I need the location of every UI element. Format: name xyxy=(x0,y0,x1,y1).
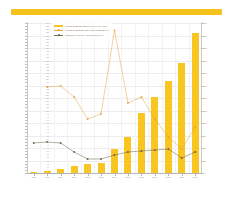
left-axis-tick-mark xyxy=(25,129,27,130)
data-point-marker xyxy=(73,96,75,98)
x-axis-tick-mark xyxy=(182,174,183,176)
left-axis-tick-label: 210 xyxy=(31,41,49,43)
data-point-marker xyxy=(127,151,129,153)
left-axis-tick-mark xyxy=(25,120,27,121)
right-axis-tick-mark xyxy=(202,148,204,149)
left-axis-tick-mark xyxy=(25,170,27,171)
data-point-marker xyxy=(127,102,129,104)
left-axis-tick-label: 55 xyxy=(31,138,49,140)
x-axis-tick-mark xyxy=(141,174,142,176)
top-banner xyxy=(11,9,222,15)
left-axis-tick-label: 30 xyxy=(31,153,49,155)
left-axis-tick-label: 50 xyxy=(31,141,49,143)
legend-label: Marktanteil T-Mobile / Deutschland in % xyxy=(65,34,104,37)
left-axis-tick-mark xyxy=(25,111,27,112)
left-axis-tick-label: 205 xyxy=(31,44,49,46)
line-series-overlay xyxy=(27,22,202,174)
left-axis-tick-mark xyxy=(25,79,27,80)
x-axis-tick-label: 2007 xyxy=(148,176,162,179)
x-axis-tick-label: 2006 xyxy=(134,176,148,179)
x-axis-tick-mark xyxy=(74,174,75,176)
left-axis-tick-label: 65 xyxy=(31,131,49,133)
left-axis-tick-mark xyxy=(25,64,27,65)
left-axis-tick-mark xyxy=(25,42,27,43)
left-axis-tick-label: 110 xyxy=(31,103,49,105)
left-axis-spine xyxy=(27,22,28,174)
left-axis-tick-label: 175 xyxy=(31,63,49,65)
x-axis-tick-label: 1999 xyxy=(40,176,54,179)
data-point-marker xyxy=(87,158,89,160)
right-axis-tick-label: 300 xyxy=(204,22,226,24)
left-axis-tick-label: 160 xyxy=(31,72,49,74)
right-axis-tick-label: 25 xyxy=(204,160,226,162)
left-axis-tick-label: 220 xyxy=(31,35,49,37)
data-point-marker xyxy=(154,118,156,120)
right-axis-tick-label: 0 xyxy=(204,172,226,174)
left-axis-tick-label: 165 xyxy=(31,69,49,71)
x-axis-tick-label: 2005 xyxy=(121,176,135,179)
left-axis-tick-label: 5 xyxy=(31,169,49,171)
x-axis-tick-mark xyxy=(115,174,116,176)
left-axis-tick-mark xyxy=(25,164,27,165)
left-axis-tick-mark xyxy=(25,23,27,24)
left-axis-tick-label: 225 xyxy=(31,31,49,33)
x-axis-tick-mark xyxy=(61,174,62,176)
left-axis-tick-mark xyxy=(25,136,27,137)
data-point-marker xyxy=(194,151,196,153)
left-axis-tick-mark xyxy=(25,132,27,133)
right-axis-tick-label: 225 xyxy=(204,60,226,62)
left-axis-tick-mark xyxy=(25,45,27,46)
left-axis-tick-label: 200 xyxy=(31,47,49,49)
left-axis-tick-label: 115 xyxy=(31,100,49,102)
left-axis-tick-mark xyxy=(25,173,27,174)
left-axis-tick-mark xyxy=(25,51,27,52)
left-axis-tick-mark xyxy=(25,29,27,30)
left-axis-tick-mark xyxy=(25,73,27,74)
data-point-marker xyxy=(154,149,156,151)
left-axis-tick-mark xyxy=(25,95,27,96)
left-axis-tick-label: 85 xyxy=(31,119,49,121)
left-axis-tick-label: 155 xyxy=(31,75,49,77)
right-axis-tick-mark xyxy=(202,36,204,37)
x-axis-tick-label: 2010 xyxy=(188,176,202,179)
data-point-marker xyxy=(114,30,116,32)
left-axis-tick-mark xyxy=(25,148,27,149)
right-axis-tick-label: 125 xyxy=(204,110,226,112)
left-axis-tick-mark xyxy=(25,48,27,49)
x-axis-tick-mark xyxy=(34,174,35,176)
x-axis-tick-mark xyxy=(168,174,169,176)
right-axis-tick-label: 175 xyxy=(204,85,226,87)
data-point-marker xyxy=(100,158,102,160)
left-axis-tick-mark xyxy=(25,54,27,55)
legend-line-marker-icon xyxy=(54,29,63,32)
data-point-marker xyxy=(141,96,143,98)
right-axis-tick-mark xyxy=(202,173,204,174)
left-axis-tick-label: 170 xyxy=(31,66,49,68)
left-axis-tick-mark xyxy=(25,26,27,27)
left-axis-tick-label: 25 xyxy=(31,156,49,158)
left-axis-tick-mark xyxy=(25,154,27,155)
data-point-marker xyxy=(73,151,75,153)
x-axis-tick-mark xyxy=(195,174,196,176)
data-point-marker xyxy=(114,154,116,156)
left-axis-tick-label: 75 xyxy=(31,125,49,127)
left-axis-tick-label: 180 xyxy=(31,60,49,62)
right-axis-tick-mark xyxy=(202,23,204,24)
left-axis-tick-label: 80 xyxy=(31,122,49,124)
data-point-marker xyxy=(87,118,89,120)
x-axis-tick-mark xyxy=(88,174,89,176)
line-path xyxy=(34,142,196,159)
left-axis-tick-label: 125 xyxy=(31,94,49,96)
left-axis-tick-label: 105 xyxy=(31,106,49,108)
line-path xyxy=(47,31,195,150)
left-axis-tick-mark xyxy=(25,117,27,118)
data-point-marker xyxy=(60,142,62,144)
left-axis-tick-label: 150 xyxy=(31,78,49,80)
left-axis-tick-label: 240 xyxy=(31,22,49,24)
left-axis-tick-label: 20 xyxy=(31,160,49,162)
right-axis-tick-mark xyxy=(202,136,204,137)
left-axis-tick-mark xyxy=(25,36,27,37)
data-point-marker xyxy=(181,157,183,159)
legend: Umsatz BREITBANDZUGANG in Mio. EUR Wachs… xyxy=(52,23,112,39)
chart-page: 2402352302252202152102052001951901851801… xyxy=(0,0,233,198)
